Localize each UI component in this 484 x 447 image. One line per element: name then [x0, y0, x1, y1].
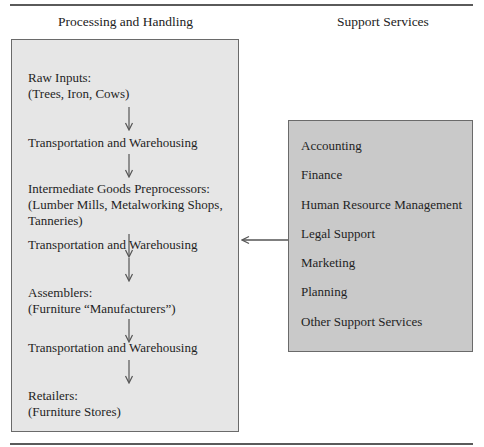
- down-arrow-icon: [124, 258, 134, 282]
- stage-retailers: Retailers: (Furniture Stores): [28, 388, 121, 420]
- stage-detail: (Furniture Stores): [28, 404, 121, 420]
- top-rule: [10, 4, 473, 6]
- stage-label: Raw Inputs:: [28, 70, 129, 86]
- stage-label: Transportation and Warehousing: [28, 135, 197, 151]
- support-item-finance: Finance: [301, 167, 342, 183]
- processing-handling-box: Raw Inputs: (Trees, Iron, Cows) Transpor…: [11, 39, 239, 432]
- stage-transport-1: Transportation and Warehousing: [28, 135, 197, 151]
- down-arrow-icon: [124, 154, 134, 178]
- support-item-legal: Legal Support: [301, 226, 375, 242]
- bottom-rule: [10, 443, 473, 445]
- down-arrow-icon: [124, 107, 134, 131]
- stage-detail: Tanneries): [28, 213, 223, 229]
- stage-raw-inputs: Raw Inputs: (Trees, Iron, Cows): [28, 70, 129, 102]
- stage-label: Transportation and Warehousing: [28, 340, 197, 356]
- left-arrow-icon: [241, 235, 288, 245]
- stage-label: Intermediate Goods Preprocessors:: [28, 181, 223, 197]
- support-services-box: Accounting Finance Human Resource Manage…: [288, 120, 473, 352]
- support-item-planning: Planning: [301, 284, 347, 300]
- stage-transport-2: Transportation and Warehousing: [28, 237, 197, 253]
- support-item-other: Other Support Services: [301, 314, 422, 330]
- stage-assemblers: Assemblers: (Furniture “Manufacturers”): [28, 285, 176, 317]
- down-arrow-icon: [124, 360, 134, 384]
- support-item-marketing: Marketing: [301, 255, 355, 271]
- stage-transport-3: Transportation and Warehousing: [28, 340, 197, 356]
- support-column-title: Support Services: [337, 14, 429, 30]
- support-item-accounting: Accounting: [301, 138, 362, 154]
- stage-label: Assemblers:: [28, 285, 176, 301]
- support-item-hr-management: Human Resource Management: [301, 197, 462, 213]
- stage-detail: (Lumber Mills, Metalworking Shops,: [28, 197, 223, 213]
- stage-detail: (Furniture “Manufacturers”): [28, 301, 176, 317]
- stage-label: Transportation and Warehousing: [28, 237, 197, 253]
- stage-label: Retailers:: [28, 388, 121, 404]
- processing-column-title: Processing and Handling: [58, 14, 193, 30]
- stage-intermediate-preprocessors: Intermediate Goods Preprocessors: (Lumbe…: [28, 181, 223, 229]
- stage-detail: (Trees, Iron, Cows): [28, 86, 129, 102]
